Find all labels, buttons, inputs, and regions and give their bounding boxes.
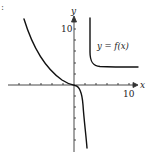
y-axis <box>72 16 77 152</box>
y-axis-arrow-icon <box>72 16 77 22</box>
curve-left-branch <box>24 19 87 148</box>
x-axis-label: x <box>140 80 145 90</box>
x-tick-label-10: 10 <box>123 89 135 99</box>
function-graph: y 10 x 10 y = f(x) <box>0 0 149 156</box>
y-axis-label: y <box>70 6 77 16</box>
function-annotation: y = f(x) <box>96 41 129 51</box>
y-tick-label-10: 10 <box>61 24 73 34</box>
x-axis-arrow-icon <box>133 83 138 88</box>
